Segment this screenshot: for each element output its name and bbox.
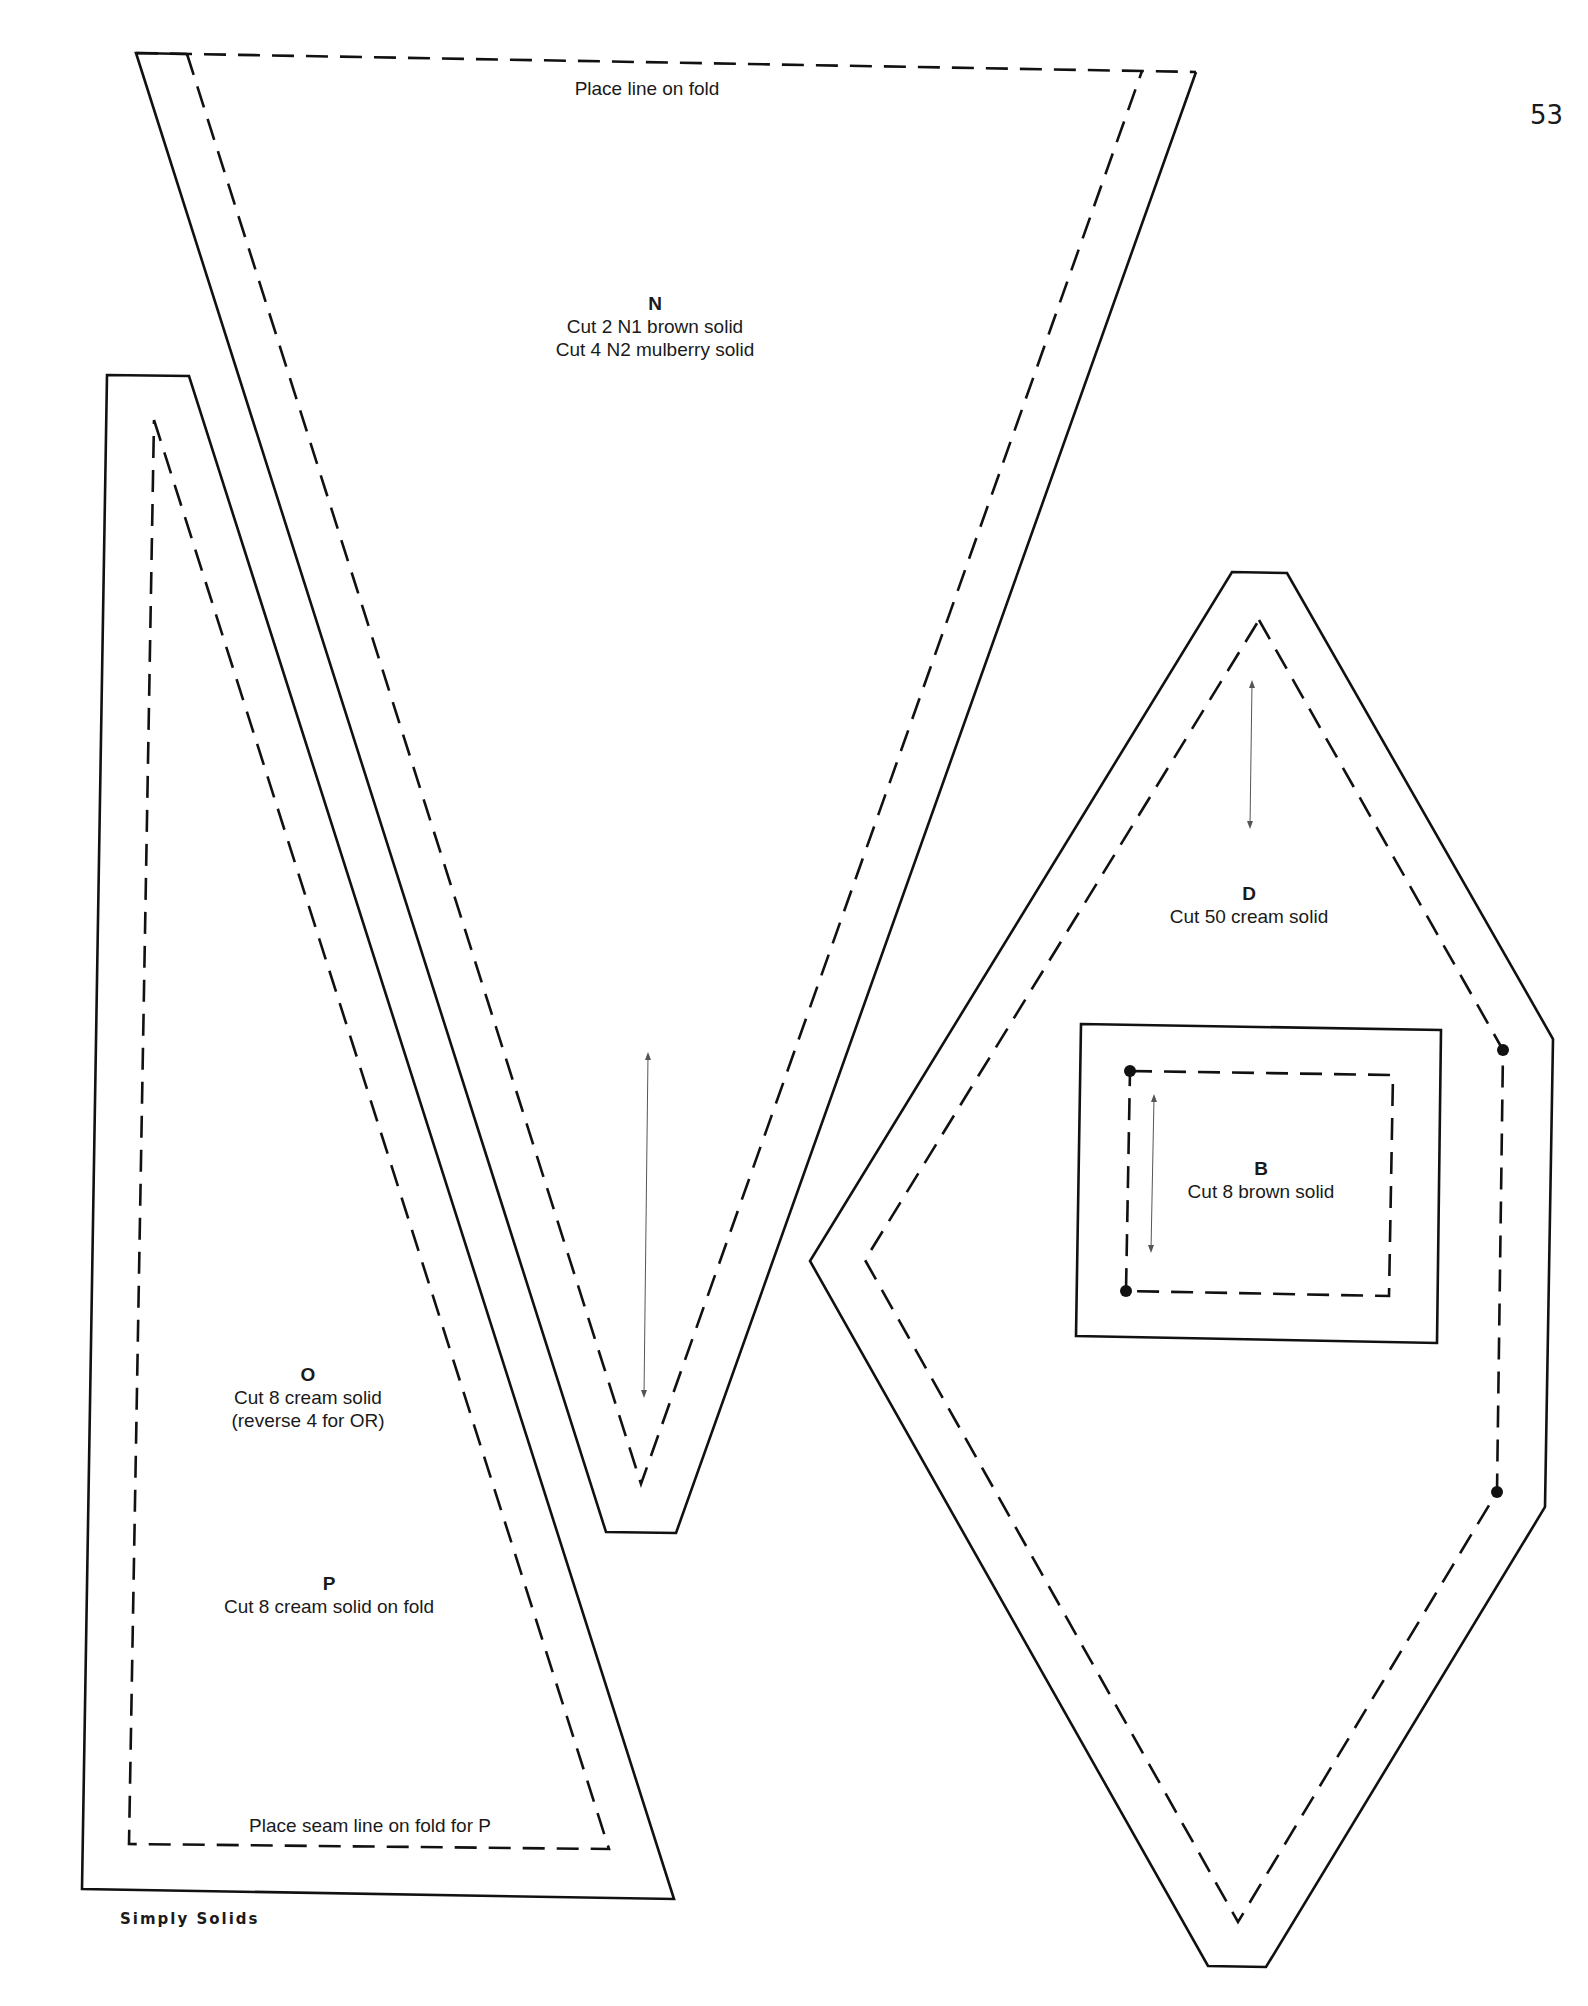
- piece-d-template: [810, 572, 1553, 1967]
- piece-n-fold-note: Place line on fold: [575, 78, 720, 100]
- piece-op-template: [82, 375, 674, 1899]
- piece-o-letter: O: [231, 1363, 384, 1386]
- piece-n-letter: N: [556, 292, 755, 315]
- page-number: 53: [1530, 100, 1563, 130]
- book-title-footer: Simply Solids: [120, 1910, 260, 1928]
- piece-n-line-2: Cut 4 N2 mulberry solid: [556, 338, 755, 361]
- piece-n-label: N Cut 2 N1 brown solid Cut 4 N2 mulberry…: [556, 292, 755, 361]
- piece-n-template: [136, 53, 1196, 1533]
- piece-p-label: P Cut 8 cream solid on fold: [224, 1572, 434, 1618]
- piece-d-line-1: Cut 50 cream solid: [1170, 905, 1328, 928]
- piece-p-fold-note: Place seam line on fold for P: [249, 1815, 491, 1837]
- piece-d-letter: D: [1170, 882, 1328, 905]
- piece-b-letter: B: [1188, 1157, 1335, 1180]
- pattern-templates: [0, 0, 1588, 2006]
- piece-n-line-1: Cut 2 N1 brown solid: [556, 315, 755, 338]
- piece-p-line-1: Cut 8 cream solid on fold: [224, 1595, 434, 1618]
- piece-d-label: D Cut 50 cream solid: [1170, 882, 1328, 928]
- piece-b-line-1: Cut 8 brown solid: [1188, 1180, 1335, 1203]
- piece-o-line-1: Cut 8 cream solid: [231, 1386, 384, 1409]
- piece-o-label: O Cut 8 cream solid (reverse 4 for OR): [231, 1363, 384, 1432]
- piece-o-line-2: (reverse 4 for OR): [231, 1409, 384, 1432]
- piece-b-label: B Cut 8 brown solid: [1188, 1157, 1335, 1203]
- piece-p-letter: P: [224, 1572, 434, 1595]
